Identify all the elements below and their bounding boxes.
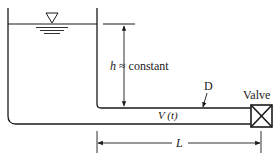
crossed-box-valve-icon [251,105,272,127]
diameter-label: D [204,80,213,92]
length-label: L [176,137,183,149]
velocity-label: V (t) [158,110,178,121]
valve-label: Valve [243,89,270,101]
tank-right-wall-and-pipe-top [97,8,251,108]
free-surface [8,13,97,34]
head-relation-label: ≈ constant [119,59,169,73]
reservoir-pipe-diagram [0,0,280,162]
inverted-triangle-water-surface-icon [46,13,58,23]
diameter-leader-arrow [203,93,207,107]
head-label-group: h ≈ constant [110,60,169,72]
head-label: h [110,59,116,73]
